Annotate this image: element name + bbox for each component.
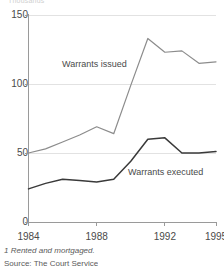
series-line-warrants-executed [29, 138, 217, 189]
axis-lines [29, 14, 217, 222]
chart-svg [0, 8, 224, 230]
cut-off-header-text: Thousands [8, 0, 138, 5]
x-axis-tick-labels: 1984198819921995 [0, 231, 224, 244]
gridlines [29, 15, 217, 153]
series-label-warrants-issued: Warrants issued [62, 59, 127, 69]
source-text: Source: The Court Service [4, 259, 98, 268]
series-line-warrants-issued [29, 38, 217, 153]
x-tick-label-1995: 1995 [205, 231, 224, 243]
plot-area [0, 8, 224, 230]
axis-tick-marks [25, 15, 216, 226]
x-tick-label-1984: 1984 [17, 231, 39, 243]
chart-figure: Thousands 050100150 1984198819921995 War… [0, 0, 224, 268]
footnote-text: 1 Rented and mortgaged. [4, 246, 95, 256]
x-tick-label-1992: 1992 [154, 231, 176, 243]
x-tick-label-1988: 1988 [86, 231, 108, 243]
series-label-warrants-executed: Warrants executed [128, 167, 203, 177]
